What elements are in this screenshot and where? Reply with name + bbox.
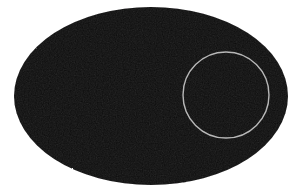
figure-canvas [0,0,298,194]
figure-svg [0,0,298,194]
